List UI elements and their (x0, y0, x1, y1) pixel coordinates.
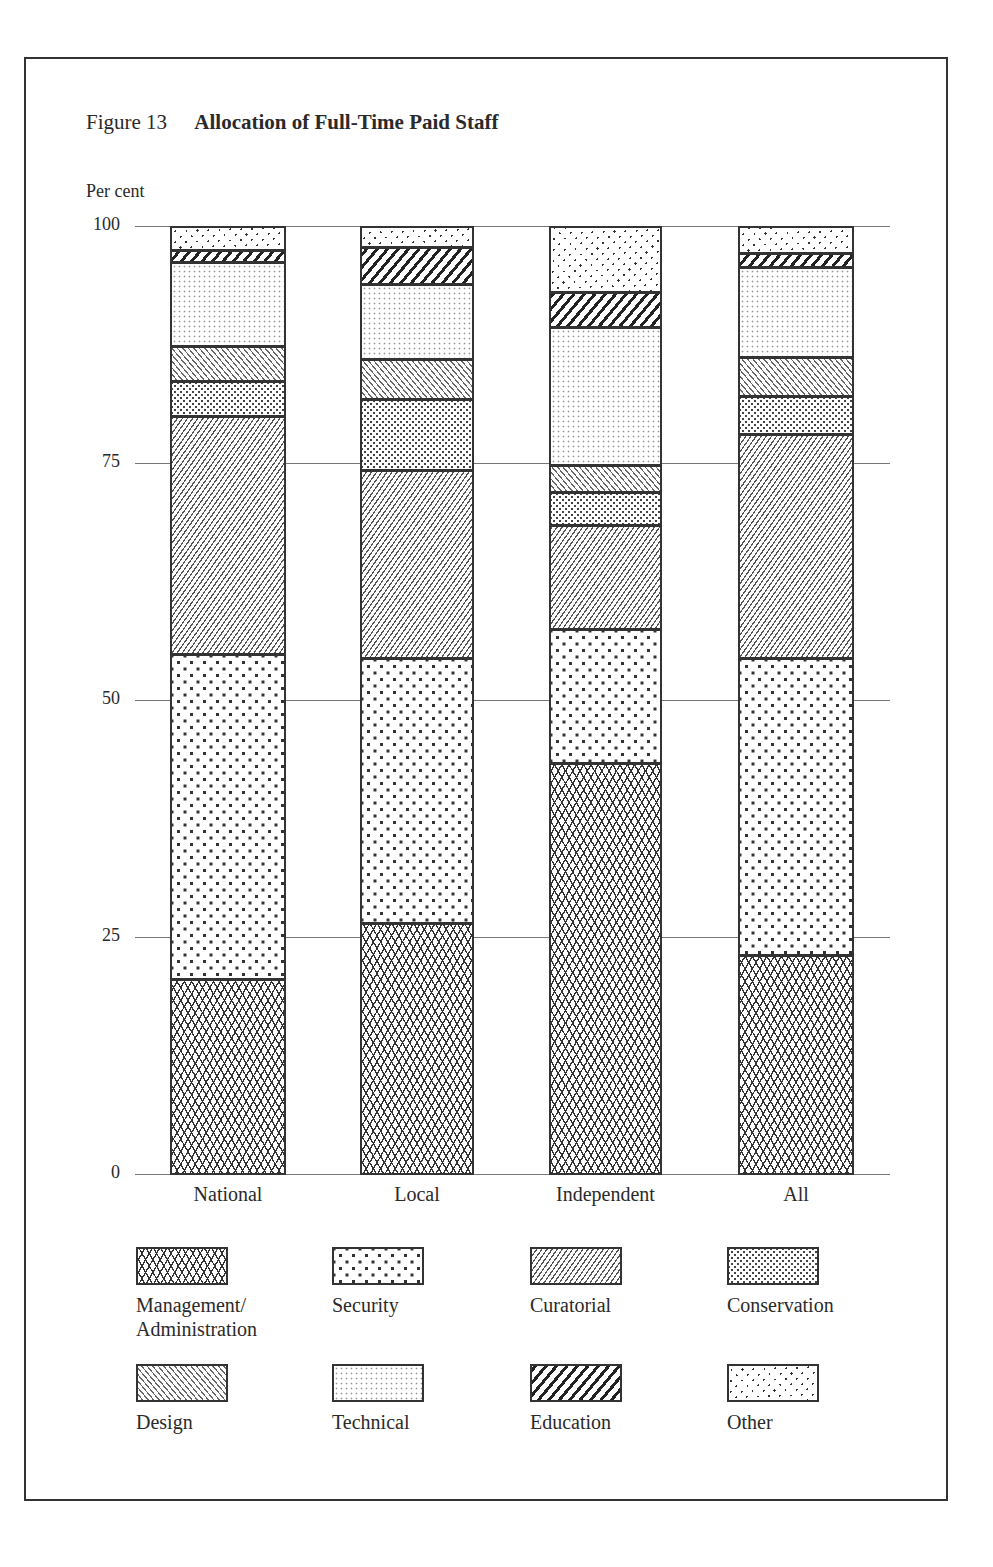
legend-item-management: Management/Administration (136, 1247, 316, 1341)
legend-label: Education (530, 1410, 710, 1434)
segment-security (738, 658, 854, 956)
y-tick-label: 75 (80, 451, 120, 472)
segment-conservation (170, 381, 286, 417)
segment-conservation (738, 396, 854, 435)
segment-security (360, 658, 474, 923)
y-tick-label: 50 (80, 688, 120, 709)
segment-design (360, 359, 474, 400)
legend-label: Management/Administration (136, 1293, 316, 1341)
segment-education (549, 292, 662, 328)
figure-title-text: Allocation of Full-Time Paid Staff (194, 110, 498, 134)
legend-label: Other (727, 1410, 907, 1434)
legend-swatch-security (332, 1247, 424, 1285)
legend-item-education: Education (530, 1364, 710, 1434)
segment-management (170, 979, 286, 1175)
segment-curatorial (170, 416, 286, 655)
bar-national (170, 226, 286, 1174)
legend-item-other: Other (727, 1364, 907, 1434)
segment-technical (360, 284, 474, 360)
legend-swatch-design (136, 1364, 228, 1402)
legend-swatch-conservation (727, 1247, 819, 1285)
legend-item-conservation: Conservation (727, 1247, 907, 1317)
legend-label: Security (332, 1293, 512, 1317)
segment-security (549, 629, 662, 764)
y-tick-label: 25 (80, 925, 120, 946)
legend-item-curatorial: Curatorial (530, 1247, 710, 1317)
bar-independent (549, 226, 662, 1174)
legend-swatch-management (136, 1247, 228, 1285)
legend-label: Design (136, 1410, 316, 1434)
legend-swatch-education (530, 1364, 622, 1402)
y-axis-label: Per cent (86, 181, 144, 202)
segment-technical (170, 262, 286, 347)
segment-design (738, 357, 854, 397)
legend-label: Conservation (727, 1293, 907, 1317)
x-label-all: All (716, 1183, 876, 1206)
legend-item-technical: Technical (332, 1364, 512, 1434)
segment-conservation (360, 399, 474, 471)
figure-number: Figure 13 (86, 110, 167, 134)
legend-swatch-curatorial (530, 1247, 622, 1285)
legend-item-security: Security (332, 1247, 512, 1317)
segment-security (170, 654, 286, 980)
segment-curatorial (738, 434, 854, 660)
x-label-local: Local (337, 1183, 497, 1206)
bar-local (360, 226, 474, 1174)
figure-title: Figure 13 Allocation of Full-Time Paid S… (86, 110, 498, 135)
legend-item-design: Design (136, 1364, 316, 1434)
x-label-national: National (148, 1183, 308, 1206)
segment-curatorial (549, 525, 662, 630)
segment-education (360, 247, 474, 285)
segment-management (738, 955, 854, 1175)
x-label-independent: Independent (526, 1183, 686, 1206)
segment-education (738, 253, 854, 268)
segment-other (170, 226, 286, 251)
segment-technical (738, 267, 854, 358)
segment-other (549, 226, 662, 293)
segment-other (738, 226, 854, 254)
legend-swatch-technical (332, 1364, 424, 1402)
segment-technical (549, 327, 662, 465)
legend-label: Technical (332, 1410, 512, 1434)
y-tick-label: 100 (80, 214, 120, 235)
segment-conservation (549, 492, 662, 525)
y-tick-label: 0 (80, 1162, 120, 1183)
segment-management (360, 923, 474, 1175)
legend-swatch-other (727, 1364, 819, 1402)
segment-curatorial (360, 470, 474, 660)
bar-all (738, 226, 854, 1174)
segment-management (549, 763, 662, 1175)
segment-education (170, 250, 286, 263)
segment-design (170, 346, 286, 381)
legend-label: Curatorial (530, 1293, 710, 1317)
segment-design (549, 465, 662, 493)
segment-other (360, 226, 474, 248)
